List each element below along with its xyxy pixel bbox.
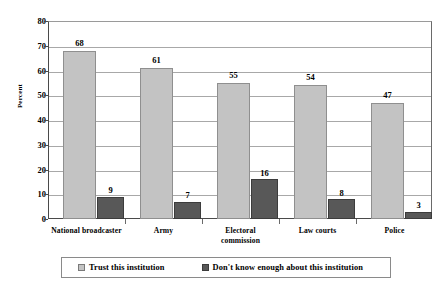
legend-item-dontknow[interactable]: Don't know enough about this institution <box>202 263 363 272</box>
y-tick-label-70: 70 <box>4 42 46 51</box>
cat-label-army: Army <box>125 226 202 236</box>
legend-label-trust: Trust this institution <box>89 263 165 272</box>
y-tick-label-50: 50 <box>4 91 46 100</box>
value-trust-army: 61 <box>140 56 173 65</box>
bar-trust-law-courts[interactable] <box>294 85 327 219</box>
value-dontknow-law-courts: 8 <box>328 189 355 198</box>
value-dontknow-army: 7 <box>174 191 201 200</box>
value-dontknow-national-broadcaster: 9 <box>97 186 124 195</box>
bar-dontknow-army[interactable] <box>174 202 201 219</box>
legend: Trust this institution Don't know enough… <box>61 257 391 278</box>
cat-label-electoral-commission: Electoralcommission <box>202 226 279 245</box>
y-tick-label-20: 20 <box>4 166 46 175</box>
value-dontknow-electoral-commission: 16 <box>251 169 278 178</box>
legend-item-trust[interactable]: Trust this institution <box>78 263 165 272</box>
cat-separator-4 <box>356 219 357 224</box>
cat-label-national-broadcaster: National broadcaster <box>48 226 125 236</box>
value-trust-law-courts: 54 <box>294 73 327 82</box>
y-tick-label-60: 60 <box>4 67 46 76</box>
y-tick-label-0: 0 <box>4 215 46 224</box>
y-tick-label-30: 30 <box>4 141 46 150</box>
value-dontknow-police: 3 <box>405 201 432 210</box>
value-trust-electoral-commission: 55 <box>217 71 250 80</box>
dark-gray-swatch-icon <box>202 264 209 271</box>
y-tickmark-0 <box>44 219 48 220</box>
bar-trust-electoral-commission[interactable] <box>217 83 250 219</box>
y-tick-label-10: 10 <box>4 190 46 199</box>
cat-label-electoral-line2: commission <box>221 236 260 245</box>
cat-label-electoral-line1: Electoral <box>225 226 255 235</box>
light-gray-swatch-icon <box>78 264 85 271</box>
bar-trust-army[interactable] <box>140 68 173 219</box>
value-trust-national-broadcaster: 68 <box>63 39 96 48</box>
bar-dontknow-electoral-commission[interactable] <box>251 179 278 219</box>
bar-trust-national-broadcaster[interactable] <box>63 51 96 219</box>
bar-trust-police[interactable] <box>371 103 404 219</box>
cat-label-police: Police <box>356 226 433 236</box>
y-axis-ticks: 80 70 60 50 40 30 20 10 0 <box>0 0 46 290</box>
cat-separator-2 <box>202 219 203 224</box>
bar-dontknow-national-broadcaster[interactable] <box>97 197 124 219</box>
y-tick-label-40: 40 <box>4 116 46 125</box>
y-tick-label-80: 80 <box>4 17 46 26</box>
bar-chart: Percent 80 70 60 50 40 30 20 10 0 <box>0 0 446 290</box>
value-trust-police: 47 <box>371 91 404 100</box>
legend-label-dontknow: Don't know enough about this institution <box>213 263 363 272</box>
cat-separator-3 <box>279 219 280 224</box>
bar-dontknow-law-courts[interactable] <box>328 199 355 219</box>
bar-dontknow-police[interactable] <box>405 212 432 219</box>
cat-separator-1 <box>125 219 126 224</box>
cat-label-law-courts: Law courts <box>279 226 356 236</box>
